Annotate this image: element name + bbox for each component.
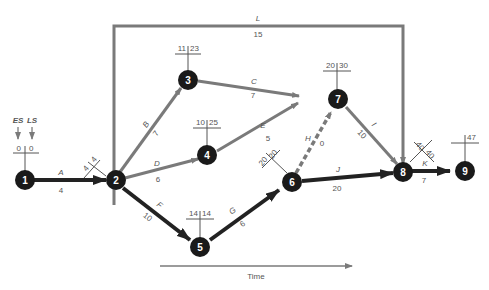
activity-A: A 4	[32, 168, 106, 195]
node-5-es: 14	[189, 209, 198, 218]
time-axis: Time	[160, 266, 352, 281]
node-4-es: 10	[196, 118, 205, 127]
activity-G: G 6	[210, 190, 279, 240]
node-6: 6	[282, 172, 302, 192]
node-5-times: 14 14	[186, 209, 214, 238]
activity-C-name: C	[251, 77, 257, 86]
node-3-ls: 23	[190, 44, 199, 53]
node-2-label: 2	[113, 175, 119, 186]
activity-H-duration: 0	[320, 139, 325, 148]
node-8-label: 8	[400, 167, 406, 178]
node-7-times: 20 30	[323, 61, 351, 90]
activity-E-duration: 5	[266, 134, 271, 143]
activity-E: E 5	[217, 103, 298, 151]
es-ls-legend: ES LS	[13, 116, 38, 139]
ls-legend-label: LS	[27, 116, 38, 125]
node-7-ls: 30	[339, 61, 348, 70]
node-1-times: 0 0	[13, 144, 39, 172]
node-6-ls: 20	[267, 148, 280, 161]
node-5: 5	[190, 237, 210, 257]
activity-H-dummy: H 0	[296, 112, 331, 173]
node-4-label: 4	[204, 150, 210, 161]
node-4: 4	[197, 145, 217, 165]
node-6-label: 6	[289, 177, 295, 188]
node-4-ls: 25	[209, 118, 218, 127]
activity-B-name: B	[141, 119, 152, 129]
node-3-es: 11	[178, 44, 187, 53]
node-4-times: 10 25	[193, 118, 221, 147]
node-5-ls: 14	[202, 209, 211, 218]
node-9-label: 9	[462, 166, 468, 177]
node-1-ls: 0	[29, 144, 34, 153]
node-7-es: 20	[326, 61, 335, 70]
node-5-label: 5	[197, 242, 203, 253]
activity-I-name: I	[370, 120, 379, 128]
node-6-times: 20 20	[257, 148, 287, 173]
node-7: 7	[328, 89, 348, 109]
activity-C: C 7	[198, 77, 299, 100]
activity-A-name: A	[57, 168, 63, 177]
activity-B: B 7	[120, 88, 181, 172]
activity-K-name: K	[422, 159, 428, 168]
activity-L-name: L	[256, 14, 260, 23]
activity-L-duration: 15	[254, 30, 263, 39]
node-9-ls: 47	[467, 133, 476, 142]
activity-B-duration: 7	[151, 129, 161, 138]
node-8: 8	[393, 162, 413, 182]
activity-J: J 20	[302, 165, 393, 193]
activity-F: F 10	[123, 188, 190, 240]
node-3-label: 3	[185, 75, 191, 86]
es-legend-label: ES	[13, 116, 24, 125]
activity-G-duration: 6	[238, 219, 247, 229]
activity-J-duration: 20	[333, 184, 342, 193]
activity-H-name: H	[305, 134, 311, 143]
activity-C-duration: 7	[251, 91, 256, 100]
activity-K: K 7	[412, 159, 450, 185]
node-9: 9	[455, 161, 475, 181]
node-1-es: 0	[17, 144, 22, 153]
node-2-times: 4 4	[81, 154, 106, 178]
activity-D-duration: 6	[156, 175, 161, 184]
activity-D-name: D	[154, 159, 160, 168]
node-2: 2	[106, 170, 126, 190]
time-axis-label: Time	[247, 272, 265, 281]
node-3-times: 11 23	[175, 44, 201, 72]
activity-G-name: G	[227, 206, 237, 217]
activity-K-duration: 7	[422, 176, 427, 185]
activity-D: D 6	[125, 159, 198, 184]
node-1-label: 1	[22, 175, 28, 186]
node-9-times: 47	[451, 133, 479, 162]
activity-A-duration: 4	[59, 186, 64, 195]
activity-J-name: J	[335, 165, 341, 174]
node-3: 3	[178, 70, 198, 90]
activity-I: I 10	[346, 107, 397, 164]
node-8-es: 40	[414, 140, 427, 153]
activity-E-name: E	[260, 121, 266, 130]
activity-F-name: F	[155, 200, 165, 211]
node-7-label: 7	[335, 94, 341, 105]
pert-network-diagram: L 15 A 4 B 7 C 7 D 6 E 5 F 10 G 6	[0, 0, 489, 290]
node-1: 1	[15, 170, 35, 190]
